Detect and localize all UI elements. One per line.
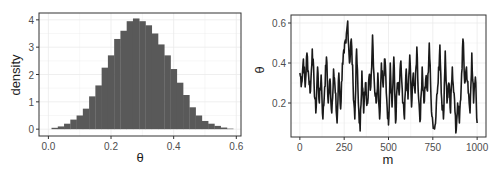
histogram-y-axis: 01234	[28, 15, 39, 135]
histogram-x-label: θ	[136, 150, 143, 165]
histogram-bar	[171, 69, 178, 129]
histogram-bar	[152, 34, 159, 130]
histogram-bar	[202, 121, 209, 129]
histogram-bar	[214, 126, 221, 129]
trace-x-label: m	[383, 152, 394, 167]
x-tick-label: 0.2	[104, 141, 118, 152]
x-tick-label: 0.4	[167, 141, 181, 152]
x-tick-label: 750	[424, 142, 441, 153]
histogram-bar	[189, 107, 196, 129]
histogram-bar	[127, 21, 134, 129]
histogram-bar	[108, 55, 115, 129]
histogram-bar	[52, 128, 59, 129]
x-tick-label: 0.6	[229, 141, 243, 152]
y-tick-label: 2	[28, 70, 34, 81]
trace-y-axis: 0.20.40.6	[272, 18, 291, 109]
histogram-bar	[183, 95, 190, 129]
x-tick-label: 1000	[466, 142, 489, 153]
histogram-bar	[133, 18, 140, 129]
trace-x-axis: 02505007501000	[297, 137, 489, 153]
y-tick-label: 0.6	[272, 18, 286, 29]
histogram-bar	[64, 124, 71, 129]
histogram-bar	[77, 116, 84, 130]
x-tick-label: 250	[336, 142, 353, 153]
histogram-bar	[145, 25, 152, 129]
histogram-bar	[227, 129, 234, 130]
histogram-bar	[158, 44, 165, 129]
histogram-panel: 01234 0.00.20.40.6 θ density	[8, 13, 244, 165]
histogram-bar	[114, 39, 121, 129]
y-tick-label: 3	[28, 42, 34, 53]
y-tick-label: 4	[28, 15, 34, 26]
histogram-bar	[208, 124, 215, 129]
histogram-bar	[95, 85, 102, 129]
x-tick-label: 0.0	[41, 141, 55, 152]
histogram-bar	[83, 109, 90, 129]
histogram-bar	[58, 126, 65, 129]
y-tick-label: 0.2	[272, 98, 286, 109]
trace-y-label: θ	[252, 66, 267, 73]
y-tick-label: 1	[28, 97, 34, 108]
y-tick-label: 0.4	[272, 58, 286, 69]
x-tick-label: 0	[297, 142, 303, 153]
figure: 01234 0.00.20.40.6 θ density 0.20.40.6 0…	[0, 0, 498, 176]
histogram-bar	[102, 68, 109, 129]
histogram-bar	[177, 83, 184, 129]
histogram-bar	[164, 55, 171, 129]
histogram-bar	[89, 96, 96, 129]
histogram-bar	[139, 21, 146, 129]
histogram-bar	[221, 128, 228, 130]
y-tick-label: 0	[28, 124, 34, 135]
histogram-bar	[196, 116, 203, 130]
histogram-bar	[120, 31, 127, 129]
trace-panel: 0.20.40.6 02505007501000 m θ	[252, 15, 489, 167]
histogram-bar	[70, 120, 77, 130]
histogram-y-label: density	[8, 54, 23, 96]
